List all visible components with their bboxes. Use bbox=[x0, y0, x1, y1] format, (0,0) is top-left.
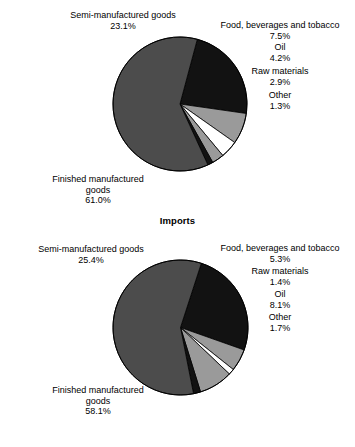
imports-label-raw-materials: Raw materials 1.4% bbox=[205, 266, 355, 287]
exports-label-raw-materials: Raw materials 2.9% bbox=[205, 66, 355, 87]
imports-label-finished-manufactured-name: Finished manufactured bbox=[30, 385, 166, 396]
imports-label-food-beverages-tobacco-name: Food, beverages and tobacco bbox=[205, 243, 355, 254]
exports-label-raw-materials-name: Raw materials bbox=[205, 66, 355, 77]
imports-label-other-name: Other bbox=[205, 312, 355, 323]
exports-label-oil-name: Oil bbox=[205, 42, 355, 53]
exports-label-other: Other 1.3% bbox=[205, 90, 355, 111]
exports-pie-chart: Semi-manufactured goods 23.1%Food, bever… bbox=[0, 0, 355, 212]
imports-label-oil-name: Oil bbox=[205, 289, 355, 300]
exports-label-semi-manufactured: Semi-manufactured goods 23.1% bbox=[48, 10, 198, 31]
imports-label-oil-value: 8.1% bbox=[205, 300, 355, 311]
imports-label-raw-materials-name: Raw materials bbox=[205, 266, 355, 277]
imports-chart-title: Imports bbox=[0, 215, 355, 226]
imports-label-semi-manufactured: Semi-manufactured goods 25.4% bbox=[16, 244, 166, 265]
imports-label-oil: Oil 8.1% bbox=[205, 289, 355, 310]
exports-label-oil-value: 4.2% bbox=[205, 53, 355, 64]
exports-label-other-value: 1.3% bbox=[205, 101, 355, 112]
imports-label-other: Other 1.7% bbox=[205, 312, 355, 333]
imports-label-finished-manufactured: Finished manufactured goods 58.1% bbox=[30, 385, 166, 417]
imports-label-raw-materials-value: 1.4% bbox=[205, 277, 355, 288]
imports-label-food-beverages-tobacco-value: 5.3% bbox=[205, 254, 355, 265]
exports-label-food-beverages-tobacco-value: 7.5% bbox=[205, 31, 355, 42]
exports-label-semi-manufactured-value: 23.1% bbox=[48, 21, 198, 32]
imports-label-other-value: 1.7% bbox=[205, 323, 355, 334]
exports-label-food-beverages-tobacco-name: Food, beverages and tobacco bbox=[205, 20, 355, 31]
exports-label-other-name: Other bbox=[205, 90, 355, 101]
imports-label-finished-manufactured-value: 58.1% bbox=[30, 406, 166, 417]
imports-label-food-beverages-tobacco: Food, beverages and tobacco 5.3% bbox=[205, 243, 355, 264]
imports-label-finished-manufactured-name2: goods bbox=[30, 396, 166, 407]
exports-label-finished-manufactured-name2: goods bbox=[30, 185, 166, 196]
exports-label-food-beverages-tobacco: Food, beverages and tobacco 7.5% bbox=[205, 20, 355, 41]
imports-label-semi-manufactured-value: 25.4% bbox=[16, 255, 166, 266]
exports-label-finished-manufactured-value: 61.0% bbox=[30, 195, 166, 206]
exports-label-finished-manufactured: Finished manufactured goods 61.0% bbox=[30, 174, 166, 206]
exports-label-raw-materials-value: 2.9% bbox=[205, 77, 355, 88]
exports-label-oil: Oil 4.2% bbox=[205, 42, 355, 63]
exports-label-semi-manufactured-name: Semi-manufactured goods bbox=[48, 10, 198, 21]
exports-label-finished-manufactured-name: Finished manufactured bbox=[30, 174, 166, 185]
imports-label-semi-manufactured-name: Semi-manufactured goods bbox=[16, 244, 166, 255]
